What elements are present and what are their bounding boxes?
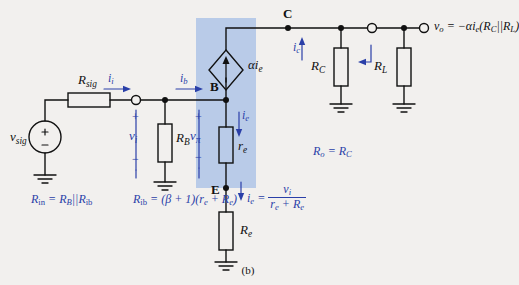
- r-c-resistor: [334, 48, 348, 86]
- label-v-i-minus: −: [132, 152, 139, 167]
- label-i-i: ii: [108, 71, 114, 86]
- equation-rib: Rib = (β + 1)(re + Re): [133, 192, 237, 207]
- label-v-i-plus: +: [132, 110, 139, 125]
- label-r-l: RL: [374, 58, 387, 75]
- equation-ro: Ro = RC: [313, 144, 352, 159]
- label-r-b: RB: [176, 130, 190, 147]
- label-v-pi-plus: +: [195, 110, 202, 125]
- terminal-node-open: [368, 24, 377, 33]
- node-dot-rl: [401, 25, 407, 31]
- node-dot-c: [285, 25, 291, 31]
- figure-caption: (b): [0, 264, 496, 276]
- terminal-node-input: [132, 96, 141, 105]
- label-node-c: C: [283, 6, 292, 22]
- source-symbol: [29, 121, 61, 153]
- r-b-resistor: [158, 124, 172, 162]
- r-sig-resistor: [68, 93, 110, 107]
- equation-vo: vo = −αie(RC||RL): [434, 19, 519, 34]
- label-alpha-ie: αie: [248, 57, 263, 74]
- terminal-node-output: [420, 24, 429, 33]
- label-r-c: RC: [311, 58, 325, 75]
- label-node-b: B: [210, 79, 219, 95]
- r-e-big-resistor: [219, 212, 233, 250]
- label-v-i: vi: [129, 128, 137, 145]
- label-v-pi-minus: −: [195, 150, 202, 165]
- label-i-b: ib: [180, 71, 188, 86]
- equation-rin: Rin = RB||Rib: [31, 192, 92, 207]
- label-v-pi: vπ: [190, 128, 200, 145]
- label-i-e-top: ie: [242, 108, 249, 123]
- label-r-e-small: re: [238, 138, 247, 155]
- label-r-e-big: Re: [240, 222, 252, 239]
- label-v-sig: vsig: [10, 129, 27, 146]
- label-i-c: ic: [293, 40, 300, 55]
- equation-ie: ie = vire + Re: [247, 183, 306, 213]
- label-r-sig: Rsig: [78, 72, 97, 89]
- r-l-resistor: [397, 48, 411, 86]
